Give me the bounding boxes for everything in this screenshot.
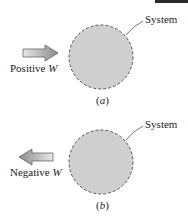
leader-line	[126, 126, 143, 140]
work-sign-diagram: System Positive W (a) System Negative W …	[0, 0, 188, 218]
work-label: Positive W	[10, 62, 58, 74]
panel-caption: (a)	[96, 94, 109, 107]
panel-caption: (b)	[96, 199, 109, 212]
right-arrow-icon	[23, 45, 58, 61]
system-circle	[69, 25, 133, 89]
leader-line	[126, 21, 143, 35]
work-label: Negative W	[10, 166, 62, 178]
panel-a: System Positive W (a)	[10, 13, 178, 107]
system-label: System	[145, 118, 178, 130]
system-circle	[69, 130, 133, 194]
panel-b: System Negative W (b)	[10, 118, 178, 212]
left-arrow-icon	[19, 149, 53, 165]
system-label: System	[145, 13, 178, 25]
